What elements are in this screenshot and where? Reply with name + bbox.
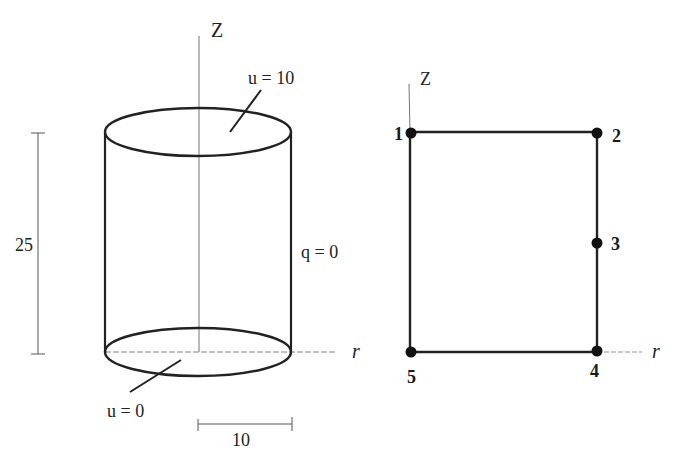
height-dimension: 25 xyxy=(15,133,45,354)
radius-dimension: 10 xyxy=(198,417,292,450)
mesh-z-axis-label: Z xyxy=(420,69,431,89)
r-axis-label: r xyxy=(352,340,360,362)
node-5-marker xyxy=(406,347,417,358)
node-1-label: 1 xyxy=(394,124,403,144)
top-boundary-label: u = 10 xyxy=(248,68,294,88)
node-3-label: 3 xyxy=(611,234,620,254)
mesh-z-axis-line xyxy=(409,84,410,132)
node-2-marker xyxy=(592,128,603,139)
node-2-label: 2 xyxy=(612,126,621,146)
cylinder-figure: Z r u = 10 u = 0 q = 0 25 xyxy=(15,19,360,450)
bottom-boundary-label: u = 0 xyxy=(107,401,144,421)
diagram-canvas: Z r u = 10 u = 0 q = 0 25 xyxy=(0,0,681,465)
node-3-marker xyxy=(592,238,603,249)
z-axis-label: Z xyxy=(211,19,223,41)
side-boundary-label: q = 0 xyxy=(301,242,338,262)
height-dimension-label: 25 xyxy=(15,235,33,255)
mesh-figure: Z r 1 2 3 4 5 xyxy=(394,69,660,387)
radius-dimension-label: 10 xyxy=(232,430,250,450)
node-4-marker xyxy=(592,346,603,357)
node-5-label: 5 xyxy=(407,367,416,387)
cylinder-top-ellipse xyxy=(105,108,291,156)
node-4-label: 4 xyxy=(590,361,599,381)
node-1-marker xyxy=(406,128,417,139)
mesh-r-axis-label: r xyxy=(652,340,660,362)
